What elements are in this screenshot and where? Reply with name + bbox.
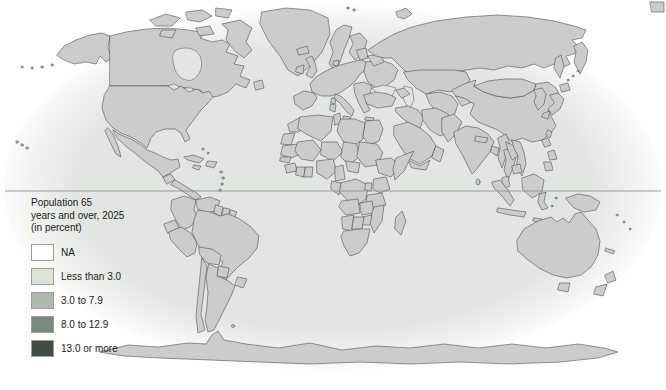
legend-row-3to8: 3.0 to 7.9	[31, 292, 124, 309]
region-chukotka-wrap	[650, 2, 664, 12]
legend-title-line1: Population 65	[31, 197, 124, 210]
legend-title-line3: (in percent)	[31, 222, 124, 235]
legend-label-13plus: 13.0 or more	[61, 343, 118, 354]
world-map-figure: Population 65 years and over, 2025 (in p…	[0, 0, 666, 390]
legend-swatch-3to8	[31, 292, 54, 309]
legend-label-3to8: 3.0 to 7.9	[61, 295, 103, 306]
region-uganda	[365, 183, 372, 191]
legend-label-8to13: 8.0 to 12.9	[61, 319, 108, 330]
legend-label-lt3: Less than 3.0	[61, 271, 121, 282]
region-cameroon	[335, 165, 345, 181]
region-falkland	[232, 325, 235, 328]
aleutian-islands	[21, 64, 53, 69]
region-sri-lanka	[476, 179, 480, 185]
region-ivory-coast	[296, 167, 305, 177]
region-guinea	[285, 163, 297, 173]
legend-row-na: NA	[31, 244, 124, 261]
legend-title: Population 65 years and over, 2025 (in p…	[31, 197, 124, 235]
region-denmark	[333, 60, 339, 66]
legend-title-line2: years and over, 2025	[31, 210, 124, 223]
region-paraguay	[217, 266, 229, 278]
region-car	[346, 161, 360, 173]
legend: Population 65 years and over, 2025 (in p…	[31, 197, 124, 364]
region-tasmania	[558, 283, 570, 292]
legend-swatch-13plus	[31, 340, 54, 357]
region-newfoundland	[254, 80, 264, 90]
legend-swatch-na	[31, 244, 54, 261]
legend-row-lt3: Less than 3.0	[31, 268, 124, 285]
region-alaska	[57, 33, 112, 64]
legend-swatch-8to13	[31, 316, 54, 333]
region-botswana	[352, 217, 364, 229]
legend-row-8to13: 8.0 to 12.9	[31, 316, 124, 333]
legend-swatch-lt3	[31, 268, 54, 285]
legend-label-na: NA	[61, 247, 75, 258]
legend-row-13plus: 13.0 or more	[31, 340, 124, 357]
region-cambodia	[512, 164, 522, 174]
